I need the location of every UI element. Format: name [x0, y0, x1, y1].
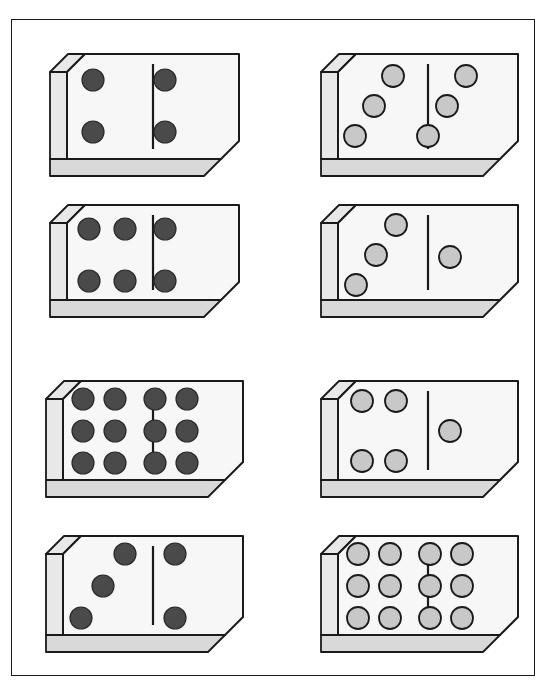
domino-pip	[70, 607, 92, 629]
domino-pip	[114, 270, 136, 292]
domino-pip	[419, 575, 441, 597]
domino-side-face	[321, 223, 338, 300]
domino-side-face	[50, 72, 67, 159]
domino-pip	[451, 575, 473, 597]
domino-pip	[144, 388, 166, 410]
domino-pip	[72, 452, 94, 474]
domino-pip	[92, 575, 114, 597]
domino-tile[interactable]	[319, 534, 520, 654]
domino-pip	[419, 543, 441, 565]
domino-tile[interactable]	[319, 379, 520, 499]
domino-pip	[78, 270, 100, 292]
domino-pip	[365, 244, 387, 266]
domino-pip	[451, 543, 473, 565]
domino-bottom-face	[321, 480, 500, 497]
domino-pip	[176, 420, 198, 442]
domino-pip	[385, 214, 407, 236]
domino-bottom-face	[46, 480, 225, 497]
domino-bottom-face	[50, 300, 221, 317]
domino-tile[interactable]	[319, 203, 520, 319]
domino-pip	[347, 543, 369, 565]
domino-pip	[351, 450, 373, 472]
domino-pip	[347, 607, 369, 629]
domino-tile[interactable]	[48, 52, 241, 178]
domino-pip	[451, 607, 473, 629]
domino-pip	[439, 246, 461, 268]
domino-pip	[363, 95, 385, 117]
domino-pip	[379, 543, 401, 565]
domino-bottom-face	[46, 635, 225, 652]
domino-pip	[78, 218, 100, 240]
domino-pip	[144, 420, 166, 442]
domino-pip	[154, 270, 176, 292]
domino-pip	[114, 543, 136, 565]
domino-pip	[379, 575, 401, 597]
domino-bottom-face	[321, 159, 500, 176]
domino-tile[interactable]	[44, 379, 245, 499]
domino-pip	[114, 218, 136, 240]
domino-pip	[82, 69, 104, 91]
domino-bottom-face	[321, 635, 500, 652]
domino-pip	[154, 69, 176, 91]
domino-pip	[164, 543, 186, 565]
domino-pip	[419, 607, 441, 629]
domino-pip	[436, 95, 458, 117]
domino-pip	[417, 125, 439, 147]
domino-side-face	[321, 399, 338, 480]
domino-pip	[379, 607, 401, 629]
domino-pip	[351, 390, 373, 412]
domino-pip	[382, 65, 404, 87]
domino-pip	[104, 420, 126, 442]
domino-pip	[344, 125, 366, 147]
domino-pip	[154, 121, 176, 143]
domino-pip	[345, 274, 367, 296]
domino-bottom-face	[321, 300, 500, 317]
domino-pip	[439, 420, 461, 442]
domino-pip	[82, 121, 104, 143]
domino-pip	[176, 452, 198, 474]
domino-pip	[455, 65, 477, 87]
domino-tile[interactable]	[48, 203, 241, 319]
domino-tile[interactable]	[319, 52, 520, 178]
domino-side-face	[46, 399, 63, 480]
domino-pip	[144, 452, 166, 474]
domino-side-face	[50, 223, 67, 300]
domino-tile[interactable]	[44, 534, 245, 654]
domino-pip	[104, 388, 126, 410]
domino-pip	[176, 388, 198, 410]
figure-frame	[11, 19, 535, 676]
domino-pip	[385, 450, 407, 472]
domino-side-face	[321, 554, 338, 635]
domino-pip	[347, 575, 369, 597]
figure-page	[0, 0, 547, 690]
domino-pip	[385, 390, 407, 412]
domino-side-face	[321, 72, 338, 159]
domino-pip	[154, 218, 176, 240]
domino-pip	[164, 607, 186, 629]
domino-pip	[72, 388, 94, 410]
domino-pip	[72, 420, 94, 442]
domino-side-face	[46, 554, 63, 635]
domino-pip	[104, 452, 126, 474]
domino-bottom-face	[50, 159, 221, 176]
